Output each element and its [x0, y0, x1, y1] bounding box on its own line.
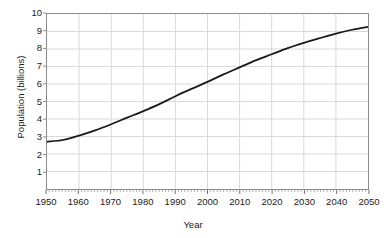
x-tick-label: 2010 — [220, 196, 260, 207]
x-tick-label: 2040 — [317, 196, 357, 207]
population-trend-line — [47, 27, 368, 142]
population-line-chart: Population (billions) 12345678910 195019… — [0, 0, 386, 238]
x-tick-label: 1950 — [26, 196, 66, 207]
x-tick-label: 1970 — [91, 196, 131, 207]
x-tick-label: 1980 — [123, 196, 163, 207]
x-tick-label: 2030 — [284, 196, 324, 207]
x-axis-title: Year — [0, 219, 386, 231]
plot-area — [46, 13, 369, 190]
x-tick-label: 1960 — [58, 196, 98, 207]
x-tick-label: 2050 — [349, 196, 386, 207]
x-tick-label: 2000 — [188, 196, 228, 207]
population-series-line — [47, 14, 368, 189]
y-axis-title: Population (billions) — [14, 2, 28, 192]
x-tick-label: 1990 — [155, 196, 195, 207]
x-tick-label: 2020 — [252, 196, 292, 207]
